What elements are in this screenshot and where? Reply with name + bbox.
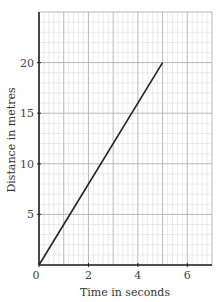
y-tick-label: 15 — [20, 107, 34, 120]
y-axis-label: Distance in metres — [5, 87, 18, 192]
x-tick-label: 4 — [134, 269, 141, 282]
x-tick-label: 0 — [33, 269, 40, 282]
grid — [39, 12, 212, 265]
x-tick-label: 2 — [85, 269, 92, 282]
x-axis-label: Time in seconds — [80, 286, 170, 299]
y-tick-label: 5 — [27, 208, 34, 221]
distance-time-chart: 02465101520 Time in seconds Distance in … — [0, 0, 216, 302]
y-tick-label: 20 — [20, 57, 34, 70]
y-tick-label: 10 — [20, 158, 34, 171]
tick-labels: 02465101520 — [20, 57, 191, 282]
x-tick-label: 6 — [184, 269, 191, 282]
axes — [39, 12, 212, 265]
